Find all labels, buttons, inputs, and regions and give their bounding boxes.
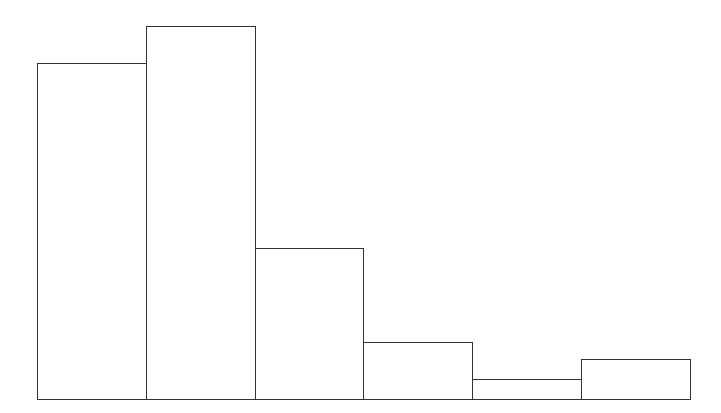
histogram-bar-4 <box>363 342 473 400</box>
histogram-bar-5 <box>472 379 582 400</box>
histogram-bar-3 <box>255 248 364 400</box>
histogram-bar-6 <box>581 359 691 400</box>
histogram-chart <box>0 0 721 413</box>
histogram-bar-1 <box>37 63 147 400</box>
histogram-bar-2 <box>146 26 256 400</box>
